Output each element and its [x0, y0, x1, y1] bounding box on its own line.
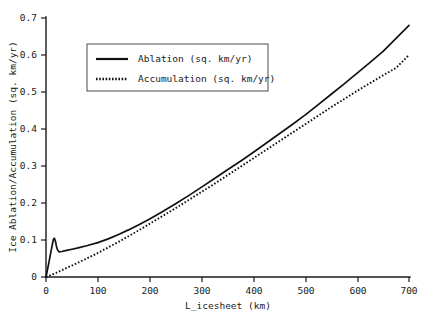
y-axis-tick-labels: 0 0.1 0.2 0.3 0.4 0.5 0.6 0.7 [20, 12, 37, 282]
y-tick-label-0.6: 0.6 [20, 49, 37, 60]
x-tick-label-0: 0 [43, 285, 49, 296]
y-tick-label-0.7: 0.7 [20, 12, 37, 23]
y-tick-label-0: 0 [31, 271, 37, 282]
chart-legend: Ablation (sq. km/yr) Accumulation (sq. k… [87, 44, 275, 91]
y-tick-label-0.5: 0.5 [20, 86, 37, 97]
legend-label-accumulation: Accumulation (sq. km/yr) [138, 73, 275, 84]
x-tick-label-400: 400 [245, 285, 262, 296]
x-axis-tick-labels: 0 100 200 300 400 500 600 700 [43, 285, 418, 296]
x-tick-label-500: 500 [297, 285, 314, 296]
y-tick-label-0.1: 0.1 [20, 234, 37, 245]
x-tick-label-700: 700 [400, 285, 417, 296]
y-axis-ticks [41, 18, 46, 277]
y-tick-label-0.2: 0.2 [20, 197, 37, 208]
x-axis-title: L_icesheet (km) [185, 300, 271, 311]
x-axis-ticks [46, 277, 409, 282]
y-axis-title: Ice Ablation/Accumulation (sq. km/yr) [7, 41, 18, 253]
y-tick-label-0.4: 0.4 [20, 123, 37, 134]
y-tick-label-0.3: 0.3 [20, 160, 37, 171]
legend-label-ablation: Ablation (sq. km/yr) [138, 53, 252, 64]
x-tick-label-300: 300 [193, 285, 210, 296]
x-tick-label-200: 200 [141, 285, 158, 296]
chart-page: 0 0.1 0.2 0.3 0.4 0.5 0.6 0.7 0 100 200 … [0, 0, 430, 313]
x-tick-label-600: 600 [349, 285, 366, 296]
line-chart: 0 0.1 0.2 0.3 0.4 0.5 0.6 0.7 0 100 200 … [0, 0, 430, 313]
x-tick-label-100: 100 [89, 285, 106, 296]
